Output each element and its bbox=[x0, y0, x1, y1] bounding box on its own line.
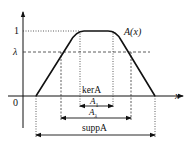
alambda-label: Aλ bbox=[89, 108, 97, 119]
a1-sub: 1 bbox=[96, 102, 99, 108]
x-axis-label: x bbox=[175, 91, 179, 101]
kernel-label-text: kerA bbox=[82, 85, 101, 95]
tick-label-lambda: λ bbox=[13, 47, 17, 57]
function-label: A(x) bbox=[124, 27, 141, 37]
tick-label-one: 1 bbox=[14, 26, 19, 36]
kernel-label: kerA bbox=[82, 86, 101, 96]
alambda-sub: λ bbox=[95, 113, 98, 119]
origin-label: 0 bbox=[13, 98, 18, 108]
support-label: suppA bbox=[82, 124, 107, 134]
